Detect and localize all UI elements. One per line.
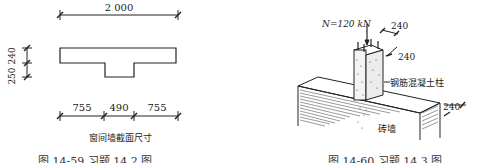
column-front xyxy=(354,50,366,100)
bottom-dim-right: 755 xyxy=(147,102,166,113)
left-subtitle: 窗间墙截面尺寸 xyxy=(89,132,152,143)
column-dim-2-label: 240 xyxy=(398,52,415,62)
column-side xyxy=(366,50,383,100)
right-caption: 图 14-60 习题 14.3 图 xyxy=(328,152,442,163)
bottom-dim-middle: 490 xyxy=(109,102,128,113)
wall-label: 砖墙 xyxy=(378,123,396,134)
t-section-outline xyxy=(60,48,176,77)
column-dim-line-2 xyxy=(388,47,397,55)
column-label: 钢筋混凝土柱 xyxy=(390,77,444,88)
top-dimension-label: 2 000 xyxy=(105,2,134,13)
diagram-canvas: 2 000 250 240 755 490 755 窗间墙截面尺寸 N=120 … xyxy=(0,0,477,163)
column-dim-1-label: 240 xyxy=(391,21,408,31)
left-caption: 图 14-59 习题 14.2 图 xyxy=(38,152,152,163)
load-label: N=120 kN xyxy=(321,19,372,29)
bottom-dim-left: 755 xyxy=(72,102,91,113)
wall-dim-label: 240 xyxy=(443,102,460,112)
left-dimension-label: 250 240 xyxy=(7,47,17,84)
